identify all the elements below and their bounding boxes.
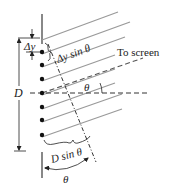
D-sin-brace bbox=[44, 136, 90, 145]
diffraction-diagram: Δy D Δy sin θ To screen θ D sin θ θ bbox=[0, 0, 174, 190]
slits bbox=[40, 50, 44, 137]
slit-dot bbox=[40, 50, 44, 54]
slit-dot bbox=[40, 118, 44, 122]
delta-y-label: Δy bbox=[23, 40, 35, 52]
theta-top-label: θ bbox=[84, 81, 90, 93]
slit-dot bbox=[40, 63, 44, 67]
slit-dot bbox=[40, 133, 44, 137]
rays bbox=[42, 12, 130, 137]
wavefront-line bbox=[48, 44, 96, 162]
D-sin-theta-label: D sin θ bbox=[48, 145, 83, 165]
theta-bottom-label: θ bbox=[63, 173, 69, 185]
delta-y-sin-theta-label: Δy sin θ bbox=[54, 41, 93, 65]
D-label: D bbox=[13, 86, 23, 100]
slit-dot bbox=[40, 91, 44, 95]
slit-dot bbox=[40, 77, 44, 81]
slit-dot bbox=[40, 105, 44, 109]
to-screen-label: To screen bbox=[117, 46, 160, 58]
